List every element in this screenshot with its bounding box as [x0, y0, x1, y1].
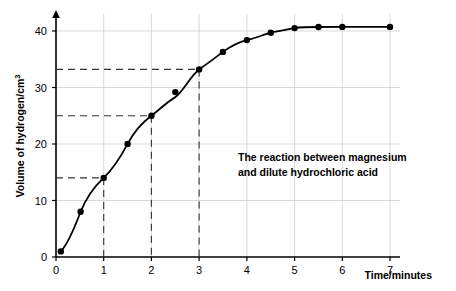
data-point [291, 25, 297, 31]
x-tick-label-5: 5 [292, 264, 298, 276]
y-tick-label-10: 10 [35, 195, 47, 207]
y-axis-title-superscript: 3 [13, 75, 22, 79]
svg-text:Volume of hydrogen/cm3: Volume of hydrogen/cm3 [13, 75, 26, 198]
y-tick-labels: 0 10 20 30 40 [35, 25, 47, 263]
hydrogen-volume-curve [61, 27, 390, 252]
x-tick-label-6: 6 [339, 264, 345, 276]
data-point [315, 24, 321, 30]
data-point [124, 141, 130, 147]
data-point [77, 209, 83, 215]
y-axis-arrow [52, 10, 60, 18]
data-point [172, 89, 178, 95]
vertical-gridlines [104, 14, 390, 257]
hydrogen-volume-line-chart: 0 1 2 3 4 5 6 7 0 10 20 30 40 [0, 0, 456, 291]
y-axis-title: Volume of hydrogen/cm3 [13, 75, 26, 198]
data-point [148, 113, 154, 119]
y-tick-label-0: 0 [41, 251, 47, 263]
x-tick-label-2: 2 [148, 264, 154, 276]
guide-lines [56, 69, 199, 257]
data-point [339, 24, 345, 30]
y-tick-label-40: 40 [35, 25, 47, 37]
x-tick-label-0: 0 [53, 264, 59, 276]
data-point [387, 24, 393, 30]
data-point [220, 49, 226, 55]
chart-container: 0 1 2 3 4 5 6 7 0 10 20 30 40 [0, 0, 456, 291]
data-point [101, 175, 107, 181]
reaction-caption-line1: The reaction between magnesium [238, 151, 407, 163]
data-point [244, 37, 250, 43]
x-tick-labels: 0 1 2 3 4 5 6 7 [53, 264, 393, 276]
x-tick-label-1: 1 [101, 264, 107, 276]
x-axis-title: Time/minutes [365, 269, 433, 281]
data-point [58, 248, 64, 254]
data-point [196, 66, 202, 72]
x-tick-label-4: 4 [244, 264, 250, 276]
y-tick-label-20: 20 [35, 138, 47, 150]
data-point-markers [58, 24, 394, 255]
x-tick-label-3: 3 [196, 264, 202, 276]
reaction-caption-line2: and dilute hydrochloric acid [238, 166, 378, 178]
data-point [268, 30, 274, 36]
y-axis-title-text: Volume of hydrogen/cm [14, 79, 26, 198]
y-tick-label-30: 30 [35, 82, 47, 94]
